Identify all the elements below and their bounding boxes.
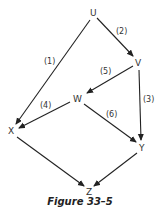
edge-u-x	[16, 20, 90, 124]
edge-label-2: (2)	[116, 27, 127, 36]
node-w: W	[73, 94, 82, 104]
edge-v-y	[139, 70, 141, 140]
node-v: V	[135, 58, 142, 68]
node-x: X	[8, 126, 14, 136]
directed-graph: U V W X Y Z (1) (2) (3) (4) (5) (6)	[0, 0, 160, 212]
edge-label-1: (1)	[44, 57, 55, 66]
edge-label-4: (4)	[40, 101, 51, 110]
edge-label-5: (5)	[100, 67, 111, 76]
node-y: Y	[138, 143, 145, 153]
figure-caption: Figure 33–5	[0, 196, 160, 207]
edge-y-z	[94, 153, 137, 186]
node-u: U	[90, 8, 97, 18]
edge-label-3: (3)	[143, 95, 154, 104]
edge-label-6: (6)	[106, 110, 117, 119]
edge-x-z	[17, 137, 84, 186]
edge-u-v	[97, 18, 133, 56]
